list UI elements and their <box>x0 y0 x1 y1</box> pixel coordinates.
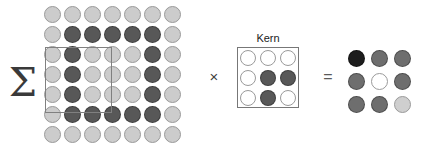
input-feature-map-cell <box>164 26 181 43</box>
input-feature-map-cell <box>124 26 141 43</box>
output-feature-map-cell <box>348 50 365 67</box>
input-feature-map-cell <box>104 26 121 43</box>
input-feature-map-cell <box>124 46 141 63</box>
input-feature-map-cell <box>164 6 181 23</box>
input-feature-map-cell <box>44 126 61 143</box>
input-feature-map-cell <box>144 26 161 43</box>
input-feature-map-cell <box>124 126 141 143</box>
kernel-cell <box>280 90 296 106</box>
input-feature-map-cell <box>164 86 181 103</box>
input-feature-map-cell <box>164 106 181 123</box>
kernel-grid <box>237 47 299 108</box>
input-feature-map-cell <box>124 86 141 103</box>
convolution-diagram: Σ × Kern = <box>0 0 429 165</box>
input-feature-map-cell <box>164 46 181 63</box>
multiply-symbol: × <box>205 68 223 86</box>
kernel-cell <box>260 50 276 66</box>
output-feature-map-cell <box>371 73 388 90</box>
output-feature-map-cell <box>394 73 411 90</box>
input-feature-map-cell <box>164 66 181 83</box>
input-feature-map-cell <box>164 126 181 143</box>
input-feature-map-cell <box>84 6 101 23</box>
input-feature-map-cell <box>144 106 161 123</box>
input-feature-map-cell <box>84 26 101 43</box>
equals-symbol: = <box>318 68 338 86</box>
kernel-cell <box>240 90 256 106</box>
input-feature-map-cell <box>104 6 121 23</box>
receptive-field-box <box>45 47 112 113</box>
input-feature-map-cell <box>64 6 81 23</box>
kernel-panel: Kern <box>236 32 300 110</box>
output-feature-map-cell <box>371 50 388 67</box>
input-feature-map-cell <box>84 126 101 143</box>
kernel-cell <box>260 70 276 86</box>
input-feature-map-cell <box>44 26 61 43</box>
input-feature-map-cell <box>64 126 81 143</box>
summation-symbol: Σ <box>6 58 40 106</box>
kernel-cell <box>240 50 256 66</box>
input-feature-map-cell <box>144 46 161 63</box>
kernel-cell <box>280 70 296 86</box>
input-feature-map-cell <box>64 26 81 43</box>
kernel-cell <box>240 70 256 86</box>
output-feature-map-cell <box>394 96 411 113</box>
kernel-label: Kern <box>236 32 300 44</box>
input-feature-map-cell <box>124 106 141 123</box>
input-feature-map-cell <box>144 126 161 143</box>
output-feature-map <box>348 50 412 113</box>
input-feature-map-cell <box>144 86 161 103</box>
input-feature-map-cell <box>144 6 161 23</box>
kernel-cell <box>260 90 276 106</box>
kernel-cell <box>280 50 296 66</box>
output-feature-map-cell <box>348 73 365 90</box>
input-feature-map-cell <box>124 66 141 83</box>
input-feature-map-cell <box>144 66 161 83</box>
output-feature-map-cell <box>348 96 365 113</box>
input-feature-map-cell <box>104 126 121 143</box>
output-feature-map-cell <box>371 96 388 113</box>
input-feature-map-cell <box>44 6 61 23</box>
input-feature-map-cell <box>124 6 141 23</box>
output-feature-map-cell <box>394 50 411 67</box>
